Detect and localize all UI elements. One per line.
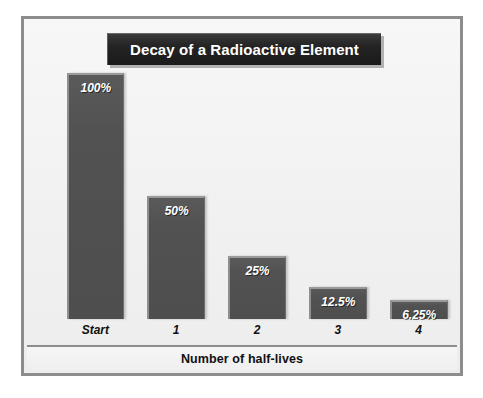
x-axis-tick-label: 2: [228, 323, 286, 337]
chart-figure: Decay of a Radioactive Element 100%50%25…: [21, 16, 463, 376]
x-axis-tick-label: 1: [147, 323, 205, 337]
bar-slot: 12.5%: [309, 67, 367, 319]
bar-slot: 100%: [67, 67, 125, 319]
chart-canvas: Decay of a Radioactive Element 100%50%25…: [24, 19, 460, 373]
bar-slot: 6.25%: [390, 67, 448, 319]
x-axis-tick-label: 4: [390, 323, 448, 337]
page-title: Decay of a Radioactive Element: [130, 41, 359, 58]
bar-value-label: 25%: [230, 264, 285, 278]
plot-area: 100%50%25%12.5%6.25%: [27, 67, 457, 319]
x-axis-title: Number of half-lives: [181, 352, 303, 366]
chart-title-plaque: Decay of a Radioactive Element: [107, 33, 381, 65]
x-axis-tick-label: Start: [67, 323, 125, 337]
bar-value-label: 100%: [69, 81, 124, 95]
bar[interactable]: 50%: [147, 196, 205, 319]
bar-slot: 25%: [228, 67, 286, 319]
x-axis-category-band: Start1234: [27, 319, 457, 347]
bar-value-label: 50%: [149, 204, 204, 218]
x-axis-title-band: Number of half-lives: [27, 347, 457, 370]
bar[interactable]: 6.25%: [390, 300, 448, 319]
bar-slot: 50%: [147, 67, 205, 319]
bar-value-label: 12.5%: [311, 295, 366, 309]
x-axis-tick-label: 3: [309, 323, 367, 337]
bar[interactable]: 12.5%: [309, 287, 367, 319]
bar[interactable]: 25%: [228, 256, 286, 319]
bar[interactable]: 100%: [67, 73, 125, 319]
